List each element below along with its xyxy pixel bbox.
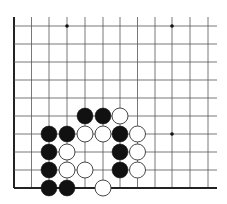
- black-stone[interactable]: [41, 162, 57, 178]
- black-stone[interactable]: [77, 108, 93, 124]
- white-stone[interactable]: [77, 126, 93, 142]
- white-stone[interactable]: [130, 162, 146, 178]
- black-stone[interactable]: [95, 108, 111, 124]
- black-stone[interactable]: [41, 126, 57, 142]
- black-stone[interactable]: [112, 126, 128, 142]
- white-stone[interactable]: [130, 144, 146, 160]
- white-stone[interactable]: [112, 108, 128, 124]
- white-stone[interactable]: [77, 162, 93, 178]
- grid-lines: [14, 17, 217, 188]
- white-stone[interactable]: [95, 126, 111, 142]
- black-stone[interactable]: [112, 144, 128, 160]
- black-stone[interactable]: [59, 126, 75, 142]
- black-stone[interactable]: [59, 180, 75, 196]
- go-board[interactable]: [0, 0, 227, 204]
- black-stone[interactable]: [41, 180, 57, 196]
- white-stone[interactable]: [95, 180, 111, 196]
- black-stone[interactable]: [41, 144, 57, 160]
- black-stone[interactable]: [112, 162, 128, 178]
- star-point: [170, 24, 174, 28]
- white-stone[interactable]: [130, 126, 146, 142]
- white-stone[interactable]: [59, 162, 75, 178]
- star-point: [170, 132, 174, 136]
- white-stone[interactable]: [59, 144, 75, 160]
- star-point: [65, 24, 69, 28]
